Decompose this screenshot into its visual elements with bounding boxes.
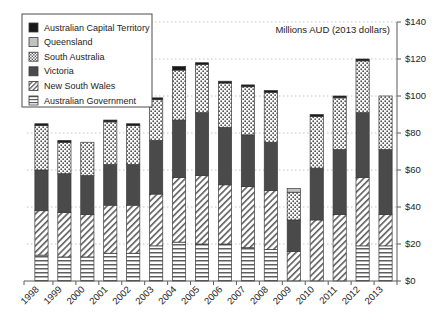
legend-label: Queensland: [44, 37, 93, 47]
x-tick-label-2008: 2008: [248, 284, 271, 307]
bar-2008: [264, 90, 277, 281]
legend-item-4: Victoria: [29, 66, 74, 76]
bar-segment: [310, 115, 323, 117]
bar-segment: [356, 246, 369, 281]
bar-segment: [195, 244, 208, 281]
bar-segment: [81, 142, 94, 175]
bar-segment: [379, 214, 392, 245]
bar-segment: [264, 92, 277, 142]
x-tick-label-2007: 2007: [225, 284, 248, 307]
bar-segment: [172, 70, 185, 120]
chart-canvas: $0$20$40$60$80$100$120$140 1998199920002…: [0, 0, 443, 324]
legend-swatch: [29, 23, 38, 32]
bar-segment: [356, 61, 369, 113]
legend-label: Victoria: [44, 66, 74, 76]
bar-segment: [218, 244, 231, 281]
bar-segment: [379, 96, 392, 150]
bar-2012: [356, 59, 369, 281]
bar-segment: [218, 83, 231, 127]
bar-segment: [127, 253, 140, 281]
bar-segment: [172, 66, 185, 70]
bar-segment: [104, 122, 117, 165]
bar-segment: [127, 164, 140, 205]
bar-segment: [35, 170, 48, 211]
bar-2005: [195, 63, 208, 281]
legend-item-6: Australian Government: [29, 96, 137, 106]
bar-segment: [58, 140, 71, 142]
bar-segment: [150, 194, 163, 246]
y-tick-label: $60: [405, 164, 421, 175]
bar-segment: [104, 164, 117, 205]
x-tick-label-2011: 2011: [317, 284, 339, 306]
x-axis-tick-labels: 1998199920002001200220032004200520062007…: [18, 284, 385, 307]
bar-segment: [241, 187, 254, 248]
bar-segment: [264, 190, 277, 249]
legend: Australian Capital TerritoryQueenslandSo…: [22, 14, 152, 107]
bar-segment: [35, 255, 48, 281]
bar-2013: [379, 96, 392, 281]
bar-segment: [127, 124, 140, 126]
bar-segment: [127, 126, 140, 165]
bar-segment: [333, 96, 346, 98]
bar-segment: [287, 251, 300, 281]
x-tick-label-2001: 2001: [87, 284, 110, 307]
x-tick-label-1999: 1999: [41, 284, 64, 307]
bar-segment: [58, 257, 71, 281]
bar-segment: [58, 174, 71, 213]
bar-segment: [310, 116, 323, 168]
bar-2007: [241, 85, 254, 281]
bar-2011: [333, 96, 346, 281]
legend-swatch: [29, 67, 38, 76]
bar-segment: [241, 248, 254, 281]
x-tick-label-2005: 2005: [179, 284, 202, 307]
bar-segment: [195, 65, 208, 113]
bar-segment: [264, 142, 277, 190]
bar-segment: [218, 81, 231, 83]
x-tick-label-2003: 2003: [133, 284, 156, 307]
x-tick-label-2006: 2006: [202, 284, 225, 307]
bar-segment: [241, 135, 254, 187]
legend-label: Australian Capital Territory: [44, 23, 150, 33]
bar-segment: [172, 120, 185, 177]
bar-segment: [287, 220, 300, 251]
bar-segment: [333, 214, 346, 281]
y-tick-label: $100: [405, 90, 426, 101]
bar-segment: [356, 177, 369, 245]
bar-1999: [58, 140, 71, 281]
x-tick-label-2013: 2013: [362, 284, 385, 307]
bar-segment: [241, 87, 254, 135]
y-axis-tick-labels: $0$20$40$60$80$100$120$140: [405, 16, 426, 286]
y-tick-label: $40: [405, 201, 421, 212]
bar-segment: [218, 127, 231, 184]
bar-segment: [264, 90, 277, 92]
bar-segment: [58, 142, 71, 173]
bar-segment: [104, 205, 117, 253]
bar-2006: [218, 81, 231, 281]
y-tick-label: $120: [405, 53, 426, 64]
bar-segment: [172, 177, 185, 242]
bar-2001: [104, 120, 117, 281]
bar-segment: [218, 185, 231, 244]
bar-segment: [287, 192, 300, 220]
bar-segment: [35, 126, 48, 170]
bar-segment: [379, 246, 392, 281]
bar-segment: [104, 120, 117, 122]
bar-2004: [172, 66, 185, 281]
x-tick-label-1998: 1998: [18, 284, 41, 307]
y-tick-label: $80: [405, 127, 421, 138]
bar-segment: [195, 113, 208, 176]
bar-segment: [35, 211, 48, 255]
bar-segment: [81, 214, 94, 257]
bar-segment: [150, 246, 163, 281]
bar-segment: [333, 98, 346, 150]
bar-segment: [333, 150, 346, 215]
x-tick-label-2010: 2010: [293, 284, 316, 307]
chart-title-group: Millions AUD (2013 dollars): [275, 24, 390, 35]
legend-swatch: [29, 96, 38, 105]
legend-swatch: [29, 81, 38, 90]
stacked-bar-chart: $0$20$40$60$80$100$120$140 1998199920002…: [0, 0, 443, 324]
bar-1998: [35, 124, 48, 281]
legend-label: South Australia: [44, 52, 105, 62]
bar-segment: [195, 63, 208, 65]
y-tick-label: $140: [405, 16, 426, 27]
